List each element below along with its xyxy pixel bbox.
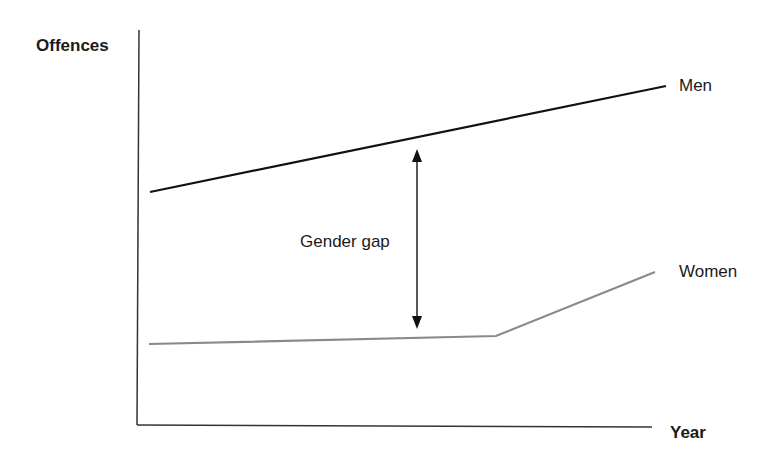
women-series-line: [149, 272, 655, 344]
women-series-label: Women: [679, 262, 737, 282]
arrow-up-head-icon: [412, 149, 422, 162]
arrow-down-head-icon: [412, 316, 422, 329]
gender-gap-label: Gender gap: [300, 232, 390, 252]
y-axis-line: [137, 30, 139, 425]
x-axis-title: Year: [670, 423, 706, 443]
chart-canvas: [0, 0, 782, 457]
y-axis-title: Offences: [36, 36, 109, 56]
x-axis-line: [137, 425, 652, 427]
gender-gap-chart: Offences Year Men Women Gender gap: [0, 0, 782, 457]
men-series-label: Men: [679, 76, 712, 96]
men-series-line: [150, 86, 666, 192]
